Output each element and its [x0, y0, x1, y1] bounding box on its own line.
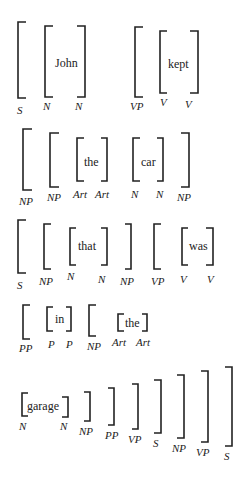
bracket-open-V: [182, 228, 188, 265]
bracket-close-NP: [177, 375, 184, 438]
bracket-close-S: [225, 367, 232, 446]
bracket-close-N: [62, 397, 68, 417]
label-NP: NP: [176, 191, 191, 203]
bracket-close-VP: [201, 371, 208, 442]
bracket-close-VP: [132, 384, 138, 429]
label-Art: Art: [94, 188, 110, 200]
label-VP: VP: [128, 433, 142, 445]
label-V: V: [185, 98, 193, 110]
label-V: V: [160, 96, 168, 108]
label-Art: Art: [72, 188, 88, 200]
bracket-close-N: [77, 26, 85, 97]
bracket-close-P: [66, 307, 71, 331]
bracket-close-V: [190, 31, 198, 93]
bracket-close-Art: [101, 138, 107, 181]
label-N: N: [74, 100, 83, 112]
bracket-close-NP: [84, 392, 90, 421]
bracket-open-NP: [50, 133, 59, 187]
bracket-close-PP: [108, 388, 114, 425]
bracket-open-N: [70, 228, 76, 265]
word-kept: kept: [168, 57, 189, 71]
bracket-open-VP: [154, 224, 161, 269]
label-NP: NP: [78, 425, 93, 437]
label-N: N: [97, 273, 106, 285]
word-the: the: [84, 155, 99, 169]
bracket-close-Art: [142, 314, 147, 331]
row-3: that was S NP N N NP VP V V: [17, 220, 215, 291]
bracket-open-NP: [23, 129, 32, 190]
bracket-close-NP: [125, 224, 131, 269]
label-S: S: [153, 437, 159, 449]
bracket-open-S: [18, 220, 26, 273]
row-4: in the PP P P NP Art Art: [18, 305, 151, 354]
word-car: car: [141, 155, 156, 169]
label-Art: Art: [135, 336, 151, 348]
label-NP: NP: [46, 191, 61, 203]
label-P: P: [65, 338, 73, 350]
row-1: John kept S N N VP V V: [17, 22, 198, 116]
label-PP: PP: [104, 429, 119, 441]
label-S: S: [224, 450, 230, 462]
word-that: that: [78, 239, 97, 253]
label-P: P: [47, 338, 55, 350]
bracket-open-N: [133, 138, 140, 181]
label-N: N: [42, 100, 51, 112]
bracket-close-S: [154, 380, 161, 433]
label-NP: NP: [38, 275, 53, 287]
bracket-open-Art: [77, 138, 84, 181]
bracket-open-NP: [44, 224, 51, 269]
word-the-2: the: [125, 316, 140, 330]
label-N: N: [59, 420, 68, 432]
word-was: was: [189, 239, 208, 253]
word-in: in: [55, 312, 64, 326]
label-NP: NP: [171, 442, 186, 454]
label-NP: NP: [18, 195, 33, 207]
row-2: the car NP NP Art Art N N NP: [18, 129, 191, 207]
label-N: N: [155, 188, 164, 200]
label-Art: Art: [111, 336, 127, 348]
bracket-open-P: [47, 307, 53, 331]
word-garage: garage: [27, 399, 59, 413]
label-N: N: [66, 270, 75, 282]
label-VP: VP: [151, 275, 165, 287]
bracketing-diagram: John kept S N N VP V V the car NP NP Art…: [0, 0, 246, 478]
label-VP: VP: [130, 100, 144, 112]
bracket-close-N: [101, 228, 107, 265]
label-N: N: [18, 420, 27, 432]
label-S: S: [17, 279, 23, 291]
bracket-open-Art: [118, 314, 124, 331]
label-N: N: [130, 188, 139, 200]
label-PP: PP: [18, 342, 33, 354]
bracket-open-S: [18, 22, 26, 98]
label-NP: NP: [86, 340, 101, 352]
row-5: garage N N NP PP VP S NP VP S: [18, 367, 232, 462]
bracket-close-N: [157, 138, 163, 181]
label-V: V: [180, 273, 188, 285]
bracket-open-PP: [23, 305, 30, 339]
bracket-open-VP: [135, 27, 143, 97]
label-VP: VP: [196, 446, 210, 458]
label-S: S: [17, 104, 23, 116]
bracket-open-V: [160, 31, 167, 93]
label-V: V: [207, 273, 215, 285]
bracket-open-N: [45, 26, 53, 97]
label-NP: NP: [119, 275, 134, 287]
bracket-open-NP: [89, 305, 96, 336]
word-john: John: [55, 56, 78, 70]
bracket-close-NP: [181, 133, 189, 187]
